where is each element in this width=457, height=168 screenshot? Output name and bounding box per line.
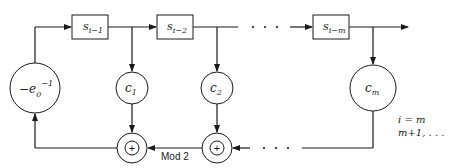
register-s-i-2: si−2 <box>157 15 193 39</box>
top-ellipsis <box>252 26 278 28</box>
mod2-adder-2: + <box>202 133 232 163</box>
multiplier-c1: c1 <box>116 72 148 104</box>
index-label-line1: i = m <box>398 114 425 125</box>
multiplier-cm: cm <box>350 65 396 111</box>
index-label-line2: m+1, . . . <box>398 127 444 138</box>
mod2-label: Mod 2 <box>161 151 189 162</box>
register-s-i-m: si−m <box>313 15 349 39</box>
feedback-multiplier-e0-inverse: −e0−1 <box>10 63 60 113</box>
lfsr-diagram: si−1 si−2 si−m −e0−1 c1 c2 cm + + Mod 2 … <box>0 0 457 168</box>
register-s-i-1: si−1 <box>72 15 108 39</box>
plus-icon: + <box>214 142 220 154</box>
multiplier-output-lines <box>132 104 217 132</box>
feedback-path <box>35 27 71 63</box>
mod2-adder-1: + <box>117 133 147 163</box>
multiplier-c2: c2 <box>201 72 233 104</box>
plus-icon: + <box>129 142 135 154</box>
bottom-ellipsis <box>263 147 289 149</box>
